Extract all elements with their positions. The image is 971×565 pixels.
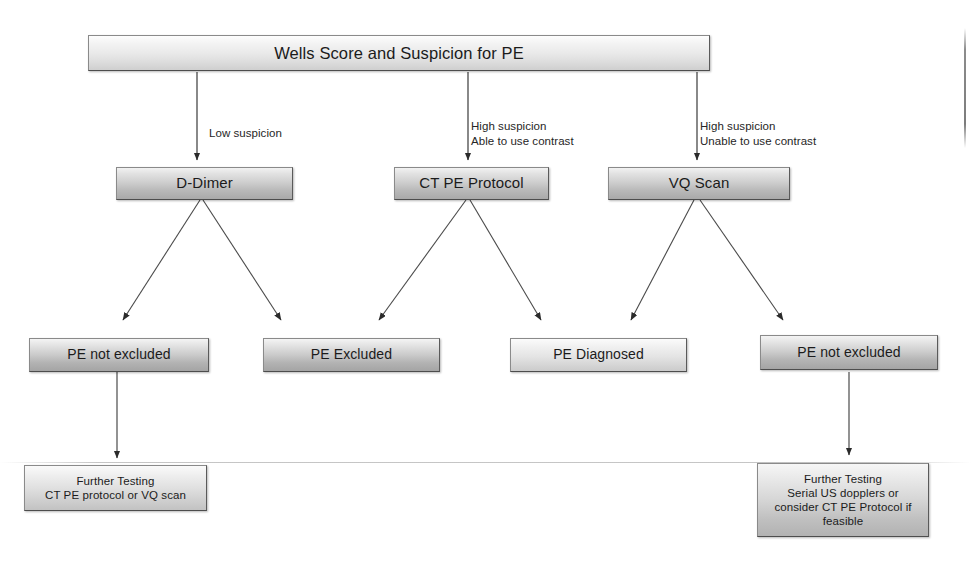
node-further-testing-right[interactable]: Further Testing Serial US dopplers or co…: [757, 463, 929, 537]
node-label: PE not excluded: [61, 346, 176, 363]
connector-ctpe-to-excluded: [379, 200, 466, 320]
edge-label-text: High suspicion Able to use contrast: [471, 120, 574, 148]
connector-ddimer-to-not-excluded: [123, 200, 200, 320]
connector-vqscan-to-not-excluded: [700, 200, 783, 320]
node-label: D-Dimer: [170, 174, 239, 192]
edge-label-high-suspicion-no-contrast: High suspicion Unable to use contrast: [700, 103, 816, 150]
node-label: PE Excluded: [305, 346, 398, 363]
node-vq-scan[interactable]: VQ Scan: [608, 167, 790, 200]
node-ct-pe-protocol[interactable]: CT PE Protocol: [394, 167, 549, 200]
connector-ctpe-to-diagnosed: [470, 200, 541, 320]
node-wells-score-title[interactable]: Wells Score and Suspicion for PE: [88, 35, 710, 71]
node-pe-not-excluded-right[interactable]: PE not excluded: [760, 335, 938, 370]
node-label: CT PE Protocol: [413, 174, 530, 192]
edge-label-text: Low suspicion: [209, 127, 282, 139]
connector-vqscan-to-diagnosed: [631, 200, 694, 320]
node-d-dimer[interactable]: D-Dimer: [116, 167, 293, 200]
node-pe-not-excluded-left[interactable]: PE not excluded: [29, 338, 209, 372]
node-label: PE not excluded: [791, 344, 906, 361]
node-pe-excluded[interactable]: PE Excluded: [263, 338, 440, 372]
node-label: VQ Scan: [663, 174, 736, 192]
node-label: Wells Score and Suspicion for PE: [268, 43, 530, 63]
edge-label-low-suspicion: Low suspicion: [209, 110, 282, 141]
flowchart-canvas: Wells Score and Suspicion for PE Low sus…: [0, 0, 971, 565]
node-label: Further Testing CT PE protocol or VQ sca…: [39, 474, 192, 502]
node-further-testing-left[interactable]: Further Testing CT PE protocol or VQ sca…: [24, 465, 207, 511]
scan-artifact-vertical: [964, 28, 966, 148]
node-pe-diagnosed[interactable]: PE Diagnosed: [510, 338, 687, 372]
node-label: PE Diagnosed: [547, 346, 650, 363]
connector-ddimer-to-excluded: [203, 200, 281, 320]
edge-label-text: High suspicion Unable to use contrast: [700, 120, 816, 148]
node-label: Further Testing Serial US dopplers or co…: [768, 472, 917, 528]
edge-label-high-suspicion-contrast: High suspicion Able to use contrast: [471, 103, 574, 150]
